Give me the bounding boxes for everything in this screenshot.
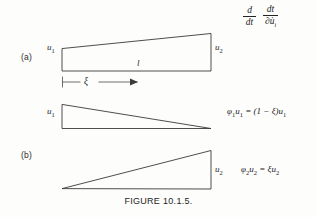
- element-length-label: l: [137, 58, 140, 68]
- shape-function-1-equation: φ1u1 = (1 − ξ)u1: [227, 106, 286, 118]
- fraction-numerator: dt: [265, 5, 276, 15]
- amplitude-label-u2: u2: [215, 164, 223, 176]
- fraction-d-dt: d dt: [243, 6, 256, 28]
- denominator-subscript: i: [274, 22, 276, 28]
- derivative-operator-expression: d dt dt ∂u̇i: [243, 5, 278, 28]
- xi-dimension-arrow: [58, 76, 158, 90]
- figure-container: d dt dt ∂u̇i (a) u1 u2 l ξ u1 φ1u1 = (1 …: [0, 0, 317, 217]
- triangle-outline: [63, 151, 212, 189]
- shape-function-2-triangle: [55, 143, 220, 193]
- node-label-u2-a: u2: [215, 42, 223, 54]
- triangle-outline: [63, 105, 212, 129]
- amplitude-label-u1: u1: [47, 106, 55, 118]
- figure-caption: FIGURE 10.1.5.: [0, 196, 317, 206]
- coordinate-label-xi: ξ: [84, 76, 88, 86]
- fraction-dt-du-dot: dt ∂u̇i: [263, 5, 278, 28]
- fraction-denominator: dt: [244, 18, 255, 28]
- node-label-u1-a: u1: [47, 42, 55, 54]
- panel-b-label: (b): [21, 150, 32, 160]
- panel-a-label: (a): [21, 52, 32, 62]
- fraction-denominator: ∂u̇i: [263, 17, 278, 28]
- arrowhead-icon: [130, 79, 138, 86]
- shape-function-1-triangle: [55, 98, 220, 134]
- shape-function-2-equation: φ2u2 = ξu2: [241, 164, 279, 176]
- element-trapezoid-a: [55, 26, 220, 78]
- fraction-numerator: d: [245, 6, 254, 16]
